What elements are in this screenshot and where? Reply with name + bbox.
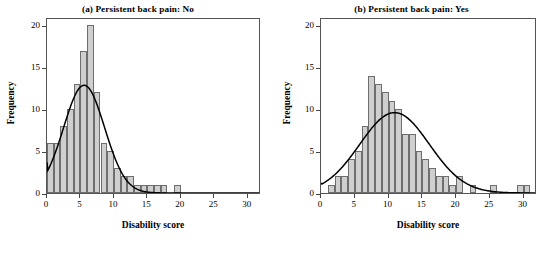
- x-tick-label: 15: [134, 199, 158, 209]
- x-tick-mark: [146, 194, 147, 198]
- x-tick-mark: [180, 194, 181, 198]
- y-tick-label: 20: [31, 19, 40, 32]
- y-tick-label: 15: [31, 61, 40, 74]
- x-tick-mark: [354, 194, 355, 198]
- y-axis-tick: 15: [0, 68, 46, 69]
- panel-b-normal-curve: [321, 19, 535, 193]
- x-tick-label: 30: [511, 199, 535, 209]
- x-tick-label: 20: [443, 199, 467, 209]
- panel-b-y-axis: 05101520: [272, 18, 320, 194]
- x-tick-mark: [213, 194, 214, 198]
- x-tick-mark: [421, 194, 422, 198]
- x-tick-label: 25: [201, 199, 225, 209]
- x-tick-label: 10: [376, 199, 400, 209]
- panel-b-y-axis-label: Frequency: [282, 73, 292, 133]
- y-axis-tick: 20: [0, 26, 46, 27]
- x-tick-mark: [388, 194, 389, 198]
- histogram-figure: (a) Persistent back pain: No 05101520 Fr…: [0, 0, 551, 260]
- y-tick-label: 10: [31, 103, 40, 116]
- x-tick-label: 0: [34, 199, 58, 209]
- y-tick-label: 20: [305, 19, 314, 32]
- panel-b-plot-area: [320, 18, 536, 194]
- x-tick-label: 5: [342, 199, 366, 209]
- panel-b-x-axis-label: Disability score: [320, 220, 536, 230]
- panel-a-x-axis: 051015202530: [46, 194, 260, 218]
- x-tick-mark: [320, 194, 321, 198]
- panel-b-title: (b) Persistent back pain: Yes: [272, 4, 551, 14]
- y-tick-label: 5: [310, 145, 315, 158]
- panel-a-y-axis-label: Frequency: [6, 73, 16, 133]
- panel-a-normal-curve: [47, 19, 259, 193]
- x-tick-label: 30: [235, 199, 259, 209]
- y-axis-tick: 20: [274, 26, 320, 27]
- fitted-normal-curve: [47, 85, 259, 193]
- x-tick-label: 25: [477, 199, 501, 209]
- y-tick-label: 10: [305, 103, 314, 116]
- x-tick-label: 20: [168, 199, 192, 209]
- x-tick-mark: [489, 194, 490, 198]
- panel-persistent-back-pain-yes: (b) Persistent back pain: Yes 05101520 F…: [272, 0, 551, 260]
- y-axis-tick: 5: [0, 152, 46, 153]
- fitted-normal-curve: [321, 113, 535, 193]
- x-tick-mark: [79, 194, 80, 198]
- x-tick-mark: [523, 194, 524, 198]
- panel-a-x-axis-label: Disability score: [46, 220, 260, 230]
- y-axis-tick: 0: [274, 194, 320, 195]
- y-tick-label: 15: [305, 61, 314, 74]
- x-tick-label: 0: [308, 199, 332, 209]
- panel-b-x-axis: 051015202530: [320, 194, 536, 218]
- x-tick-mark: [455, 194, 456, 198]
- y-axis-tick: 5: [274, 152, 320, 153]
- y-axis-tick: 10: [274, 110, 320, 111]
- x-tick-label: 5: [67, 199, 91, 209]
- panel-persistent-back-pain-no: (a) Persistent back pain: No 05101520 Fr…: [0, 0, 276, 260]
- x-tick-mark: [46, 194, 47, 198]
- x-tick-mark: [247, 194, 248, 198]
- x-tick-mark: [113, 194, 114, 198]
- x-tick-label: 15: [409, 199, 433, 209]
- panel-a-plot-area: [46, 18, 260, 194]
- x-tick-label: 10: [101, 199, 125, 209]
- panel-a-title: (a) Persistent back pain: No: [0, 4, 276, 14]
- y-axis-tick: 0: [0, 194, 46, 195]
- y-axis-tick: 15: [274, 68, 320, 69]
- y-tick-label: 5: [36, 145, 41, 158]
